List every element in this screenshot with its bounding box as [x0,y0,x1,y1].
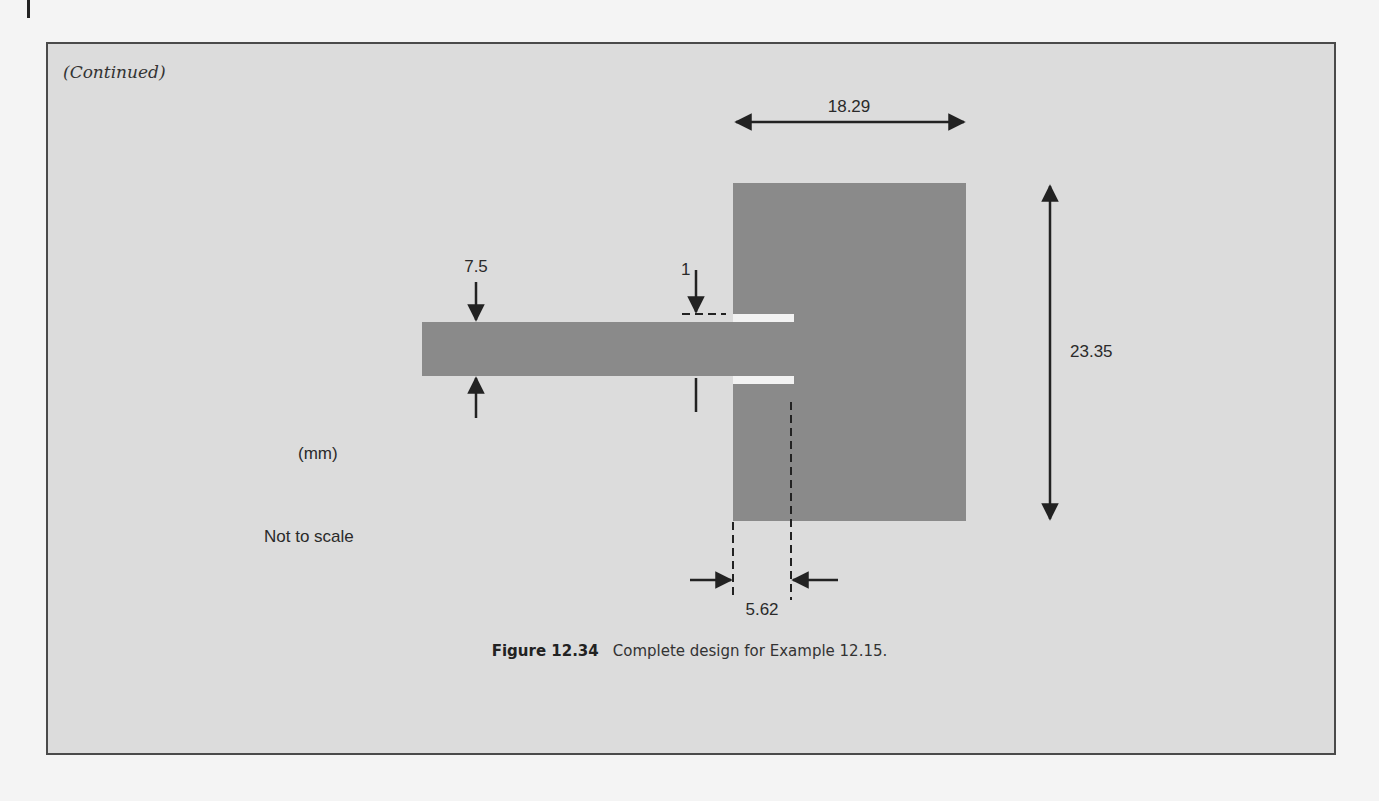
inset-gap-bottom [733,376,794,384]
units-label: (mm) [298,444,338,463]
inset-depth-label: 5.62 [745,600,778,619]
patch-antenna-diagram: 18.29 23.35 7.5 1 5.62 (mm) Not to scale [0,0,1379,801]
patch-width-label: 18.29 [828,97,871,116]
inset-gap-top [733,314,794,322]
feed-line [422,322,794,376]
feed-width-label: 7.5 [464,257,488,276]
gap-label: 1 [681,260,690,279]
figure-caption: Figure 12.34Complete design for Example … [0,642,1379,660]
patch-length-label: 23.35 [1070,342,1113,361]
figure-number: Figure 12.34 [492,642,599,660]
scale-note: Not to scale [264,527,354,546]
figure-caption-text: Complete design for Example 12.15. [613,642,888,660]
